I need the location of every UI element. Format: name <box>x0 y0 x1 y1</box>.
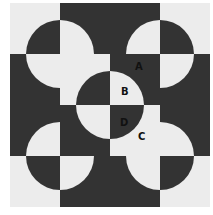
tile-r3-c2 <box>110 156 160 207</box>
quarter-circle <box>126 156 160 190</box>
tile-r1-c3 <box>160 54 210 105</box>
tile-pattern-board: ABDC <box>10 3 209 207</box>
tile-r3-c1 <box>60 156 110 207</box>
quarter-circle <box>160 122 194 156</box>
tile-r0-c3 <box>160 3 210 54</box>
region-label-c: C <box>138 132 145 142</box>
region-label-d: D <box>120 118 128 128</box>
tile-r2-c1 <box>60 105 110 156</box>
tile-r0-c1 <box>60 3 110 54</box>
quarter-circle <box>76 71 110 105</box>
quarter-circle <box>60 20 94 54</box>
tile-r1-c0 <box>10 54 60 105</box>
quarter-circle <box>60 156 94 190</box>
quarter-circle <box>26 54 60 88</box>
quarter-circle <box>26 122 60 156</box>
tile-r2-c0 <box>10 105 60 156</box>
quarter-circle <box>26 20 60 54</box>
quarter-circle <box>160 20 194 54</box>
tile-r0-c2 <box>110 3 160 54</box>
quarter-circle <box>160 54 194 88</box>
quarter-circle <box>126 20 160 54</box>
tile-r0-c0 <box>10 3 60 54</box>
region-label-b: B <box>121 87 129 97</box>
quarter-circle <box>160 156 194 190</box>
tile-r2-c2 <box>110 105 160 156</box>
quarter-circle <box>76 105 110 139</box>
region-label-a: A <box>135 62 143 72</box>
tile-r3-c0 <box>10 156 60 207</box>
quarter-circle <box>26 156 60 190</box>
tile-r2-c3 <box>160 105 210 156</box>
tile-r3-c3 <box>160 156 210 207</box>
tile-r1-c1 <box>60 54 110 105</box>
